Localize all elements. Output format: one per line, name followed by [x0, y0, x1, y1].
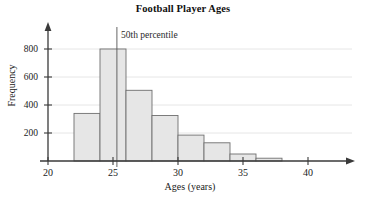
ytick-label-200: 200: [12, 128, 38, 138]
xtick-label-20: 20: [36, 167, 60, 178]
xtick-label-40: 40: [296, 167, 320, 178]
xtick-label-35: 35: [231, 167, 255, 178]
xtick-label-30: 30: [166, 167, 190, 178]
bar-24-26: [100, 49, 126, 161]
y-axis: [44, 22, 52, 161]
bar-32-34: [204, 143, 230, 161]
bar-26-28: [126, 90, 152, 161]
x-axis-title: Ages (years): [100, 181, 280, 192]
bar-22-24: [74, 113, 100, 161]
chart-container: Football Player Ages: [0, 0, 366, 200]
xtick-label-25: 25: [101, 167, 125, 178]
percentile-annotation-label: 50th percentile: [121, 30, 178, 40]
bar-28-30: [152, 116, 178, 162]
bar-30-32: [178, 135, 204, 161]
plot-area: 800 600 400 200 20 25 30 35 40 Ages (yea…: [0, 0, 366, 200]
y-axis-title: Frequency: [6, 51, 17, 121]
